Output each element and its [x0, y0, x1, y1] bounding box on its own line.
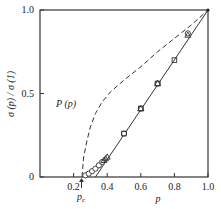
- y-axis-label: σ (p) / σ (1): [5, 70, 17, 117]
- annotation-P-p: P (p): [55, 98, 77, 110]
- x-tick-label: 1.0: [202, 181, 215, 192]
- chart: 0.20.40.60.81.000.51.0 σ (p) / σ (1) p P…: [0, 0, 221, 209]
- y-tick-label: 1.0: [22, 4, 35, 15]
- y-tick-label: 0.5: [22, 88, 35, 99]
- circle-marker: [121, 131, 126, 136]
- x-tick-label: 0.4: [101, 181, 114, 192]
- annotation-pc: pc: [76, 191, 86, 204]
- x-tick-label: 0.6: [135, 181, 148, 192]
- endpoint-dot: [206, 8, 209, 11]
- fit-line: [95, 10, 208, 177]
- series-layer: [82, 8, 210, 178]
- x-axis-label: p: [155, 193, 161, 204]
- y-tick-label: 0: [29, 171, 34, 182]
- plot-frame: [40, 10, 208, 177]
- x-tick-label: 0.8: [168, 181, 181, 192]
